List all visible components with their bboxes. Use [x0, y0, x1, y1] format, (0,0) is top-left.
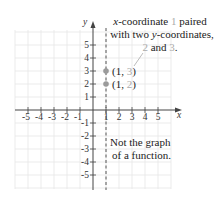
svg-text:3: 3: [130, 112, 135, 122]
svg-text:-4: -4: [35, 112, 43, 122]
svg-text:with two y-coordinates,: with two y-coordinates,: [110, 28, 214, 40]
svg-text:4: 4: [143, 112, 148, 122]
svg-text:-3: -3: [81, 144, 89, 154]
svg-text:5: 5: [84, 40, 89, 50]
svg-text:x-coordinate 1 paired: x-coordinate 1 paired: [112, 15, 207, 27]
svg-text:x: x: [176, 110, 182, 120]
function-graph: x y -5 -4 -3 -2 -1 1 2 3 4 5 5 4 3 2 1: [0, 0, 224, 200]
annotation-pointer: [134, 53, 143, 66]
svg-text:1: 1: [84, 92, 89, 102]
point-label-1-3: (1, 3): [112, 65, 136, 78]
svg-text:2: 2: [84, 79, 89, 89]
svg-text:2 and 3.: 2 and 3.: [142, 41, 177, 53]
svg-text:Not the graph: Not the graph: [110, 136, 171, 148]
svg-text:of a function.: of a function.: [112, 149, 171, 161]
svg-text:-4: -4: [81, 157, 89, 167]
svg-text:2: 2: [117, 112, 122, 122]
annotation-bottom: Not the graph of a function.: [110, 136, 171, 161]
svg-text:y: y: [82, 17, 88, 27]
x-tick-labels: -5 -4 -3 -2 -1 1 2 3 4 5: [22, 112, 161, 122]
point-1-2: [103, 81, 109, 87]
svg-text:3: 3: [84, 66, 89, 76]
svg-text:-1: -1: [81, 118, 89, 128]
svg-text:-3: -3: [48, 112, 56, 122]
svg-text:-5: -5: [81, 170, 89, 180]
svg-text:-2: -2: [81, 131, 89, 141]
svg-text:4: 4: [84, 53, 89, 63]
point-1-3: [103, 68, 109, 74]
svg-text:-5: -5: [22, 112, 30, 122]
point-label-1-2: (1, 2): [112, 78, 136, 91]
annotation-top: x-coordinate 1 paired with two y-coordin…: [110, 15, 214, 53]
svg-text:-2: -2: [61, 112, 69, 122]
svg-text:5: 5: [156, 112, 161, 122]
